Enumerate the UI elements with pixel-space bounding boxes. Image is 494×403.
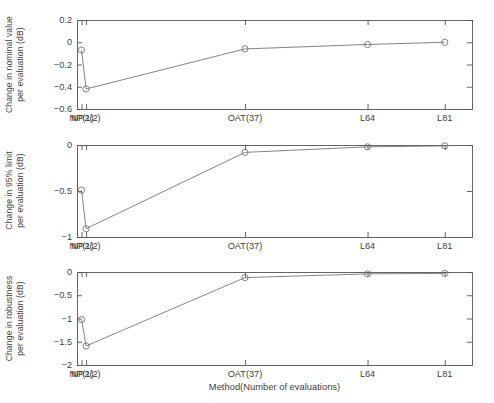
y-axis-title: Change in 95% limitper evaluation (dB) (4, 128, 25, 254)
chart-panel-robustness: 0−0.5−1−1.5−2NP(1)NP2(2)OAT(37)L64L81Cha… (0, 266, 494, 391)
x-axis-tick-label: NP2(2) (72, 113, 101, 123)
x-axis-tick-label: L64 (360, 113, 375, 123)
x-axis-tick-label: L64 (360, 241, 375, 251)
y-axis-title-line: Change in 95% limit (4, 128, 15, 254)
plot-area (0, 266, 494, 367)
data-series-line (82, 146, 445, 229)
plot-area (0, 14, 494, 111)
x-axis-tick-label: NP2(2) (72, 241, 101, 251)
y-axis-title-line: per evaluation (dB) (14, 3, 25, 126)
x-axis-title: Method(Number of evaluations) (209, 381, 340, 392)
x-axis-tick-label: OAT(37) (228, 369, 263, 379)
x-axis-tick-label: OAT(37) (228, 241, 263, 251)
figure-panel-group: 0.20−0.2−0.4−0.6NP(1)NP2(2)OAT(37)L64L81… (0, 0, 494, 403)
x-axis-tick-label: OAT(37) (228, 113, 263, 123)
axes-frame (78, 146, 473, 238)
x-axis-tick-label: L81 (437, 113, 452, 123)
data-series-line (82, 273, 445, 346)
y-axis-title-line: per evaluation (dB) (14, 255, 25, 382)
x-axis-tick-label: L81 (437, 241, 452, 251)
plot-area (0, 139, 494, 239)
data-series-line (82, 42, 445, 89)
axes-frame (78, 21, 473, 110)
x-axis-tick-label: L81 (437, 369, 452, 379)
x-axis-tick-label: L64 (360, 369, 375, 379)
axes-frame (78, 273, 473, 366)
y-axis-title: Change in nominal valueper evaluation (d… (4, 3, 25, 126)
y-axis-title-line: Change in nominal value (4, 3, 15, 126)
chart-panel-nominal-value: 0.20−0.2−0.4−0.6NP(1)NP2(2)OAT(37)L64L81… (0, 14, 494, 135)
y-axis-title-line: per evaluation (dB) (14, 128, 25, 254)
chart-panel-95-limit: 0−0.5−1NP(1)NP2(2)OAT(37)L64L81Change in… (0, 139, 494, 263)
y-axis-title: Change in robustnessper evaluation (dB) (4, 255, 25, 382)
y-axis-title-line: Change in robustness (4, 255, 15, 382)
x-axis-tick-label: NP2(2) (72, 369, 101, 379)
